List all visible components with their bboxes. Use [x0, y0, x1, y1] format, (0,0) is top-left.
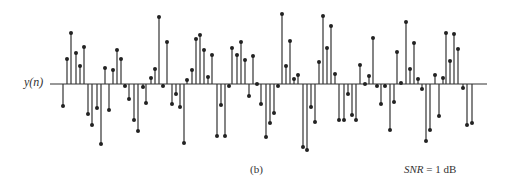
stem-marker: [123, 84, 127, 88]
stem-marker: [215, 134, 219, 138]
stem-marker: [95, 106, 99, 110]
stem-marker: [288, 39, 292, 43]
stem-marker: [185, 78, 189, 82]
stem-marker: [90, 123, 94, 127]
y-axis-label: y(n): [24, 75, 43, 90]
stem-marker: [416, 77, 420, 81]
stem-marker: [309, 105, 313, 109]
stem-marker: [456, 47, 460, 51]
stem-plot: [0, 0, 511, 186]
stem-marker: [342, 118, 346, 122]
stem-marker: [78, 64, 82, 68]
stem-marker: [444, 31, 448, 35]
stem-marker: [461, 86, 465, 90]
stem-marker: [239, 40, 243, 44]
stem-marker: [333, 72, 337, 76]
stem-marker: [235, 53, 239, 57]
stem-marker: [420, 87, 424, 91]
stem-marker: [82, 45, 86, 49]
stem-marker: [243, 58, 247, 62]
stem-marker: [174, 92, 178, 96]
stem-marker: [170, 102, 174, 106]
stem-marker: [149, 76, 153, 80]
stem-marker: [358, 63, 362, 67]
stem-marker: [210, 53, 214, 57]
figure-caption: (b): [250, 163, 263, 175]
stem-marker: [412, 41, 416, 45]
stem-marker: [363, 82, 367, 86]
stem-marker: [424, 139, 428, 143]
stem-marker: [404, 20, 408, 24]
stem-marker: [255, 82, 259, 86]
stem-marker: [136, 129, 140, 133]
stem-marker: [388, 128, 392, 132]
stem-marker: [441, 76, 445, 80]
stem-marker: [325, 46, 329, 50]
stem-marker: [259, 102, 263, 106]
stem-marker: [428, 128, 432, 132]
stem-marker: [65, 57, 69, 61]
stem-marker: [379, 102, 383, 106]
stem-marker: [399, 81, 403, 85]
stem-marker: [264, 135, 268, 139]
stem-marker: [448, 59, 452, 63]
stem-marker: [69, 31, 73, 35]
stem-marker: [337, 118, 341, 122]
stem-marker: [103, 66, 107, 70]
stem-marker: [268, 121, 272, 125]
stem-marker: [329, 24, 333, 28]
stem-marker: [111, 68, 115, 72]
snr-label-value: = 1 dB: [424, 163, 457, 175]
stem-marker: [141, 85, 145, 89]
stem-marker: [272, 111, 276, 115]
stem-marker: [437, 114, 441, 118]
snr-annotation: SNR = 1 dB: [404, 163, 456, 175]
stem-marker: [190, 68, 194, 72]
stem-marker: [132, 118, 136, 122]
stem-marker: [202, 48, 206, 52]
stem-marker: [161, 84, 165, 88]
stem-marker: [247, 94, 251, 98]
stem-marker: [198, 33, 202, 37]
stem-marker: [223, 134, 227, 138]
stem-marker: [153, 67, 157, 71]
stem-marker: [284, 64, 288, 68]
stem-marker: [61, 104, 65, 108]
stem-marker: [194, 37, 198, 41]
snr-label-var: SNR: [404, 163, 424, 175]
stem-marker: [219, 103, 223, 107]
stem-marker: [301, 145, 305, 149]
stem-marker: [465, 123, 469, 127]
stem-marker: [74, 51, 78, 55]
stem-marker: [375, 84, 379, 88]
stem-marker: [313, 120, 317, 124]
stems-group: [61, 12, 474, 152]
stem-marker: [227, 84, 231, 88]
stem-marker: [292, 77, 296, 81]
stem-marker: [317, 60, 321, 64]
stem-marker: [157, 15, 161, 19]
stem-marker: [321, 14, 325, 18]
stem-marker: [433, 73, 437, 77]
stem-marker: [99, 142, 103, 146]
stem-marker: [296, 73, 300, 77]
stem-marker: [408, 67, 412, 71]
stem-marker: [452, 32, 456, 36]
stem-marker: [346, 92, 350, 96]
stem-marker: [115, 48, 119, 52]
stem-marker: [350, 113, 354, 117]
stem-marker: [470, 121, 474, 125]
stem-marker: [165, 40, 169, 44]
stem-marker: [276, 84, 280, 88]
stem-marker: [367, 74, 371, 78]
stem-marker: [206, 75, 210, 79]
stem-marker: [127, 97, 131, 101]
stem-marker: [119, 57, 123, 61]
stem-marker: [371, 36, 375, 40]
stem-marker: [230, 46, 234, 50]
stem-marker: [107, 108, 111, 112]
stem-marker: [182, 141, 186, 145]
stem-marker: [144, 101, 148, 105]
stem-marker: [383, 84, 387, 88]
stem-marker: [305, 148, 309, 152]
